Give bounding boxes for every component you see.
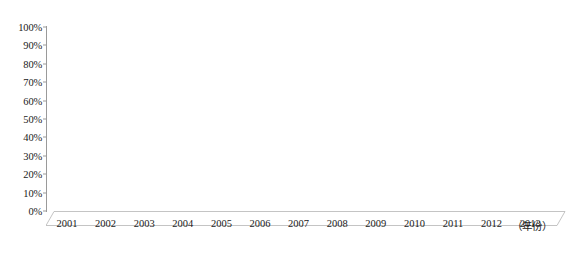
chart-container: 0%10%20%30%40%50%60%70%80%90%100% 200120… — [0, 0, 586, 254]
y-tick-label: 70% — [23, 77, 42, 88]
plot-area: 0%10%20%30%40%50%60%70%80%90%100% 200120… — [0, 0, 586, 254]
y-tick-label: 20% — [23, 169, 42, 180]
y-tick-label: 80% — [23, 58, 42, 69]
x-tick-label: 2003 — [134, 218, 155, 229]
x-tick-label: 2007 — [288, 218, 309, 229]
y-tick-label: 40% — [23, 132, 42, 143]
y-tick-label: 50% — [23, 114, 42, 125]
x-tick-label: 2010 — [404, 218, 425, 229]
y-tick-label: 60% — [23, 95, 42, 106]
x-tick-label: 2002 — [95, 218, 116, 229]
y-tick-label: 30% — [23, 150, 42, 161]
x-tick-label: 2004 — [172, 218, 193, 229]
x-tick-label: 2001 — [57, 218, 78, 229]
x-axis: 2001200220032004200520062007200820092010… — [46, 218, 586, 240]
y-axis: 0%10%20%30%40%50%60%70%80%90%100% — [0, 0, 44, 254]
x-tick-label: 2006 — [250, 218, 271, 229]
x-tick-label: 2012 — [481, 218, 502, 229]
bar-series — [46, 0, 586, 254]
x-axis-title: （年份） — [512, 218, 552, 233]
x-tick-label: 2011 — [443, 218, 464, 229]
x-tick-label: 2005 — [211, 218, 232, 229]
x-tick-label: 2009 — [365, 218, 386, 229]
y-tick-label: 100% — [18, 22, 42, 33]
x-tick-label: 2008 — [327, 218, 348, 229]
y-tick-label: 90% — [23, 40, 42, 51]
y-tick-label: 0% — [28, 206, 42, 217]
y-tick-label: 10% — [23, 187, 42, 198]
